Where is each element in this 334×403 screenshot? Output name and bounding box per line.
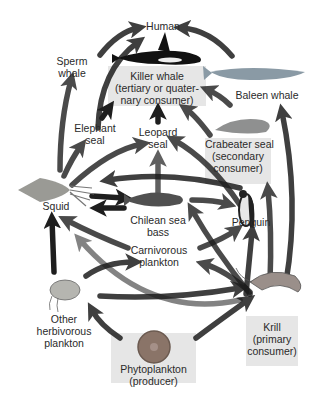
arrow-squid-to-elephant-seal — [64, 146, 81, 176]
node-crabeater-seal: Crabeater seal (secondary consumer) — [205, 138, 271, 174]
node-sperm-whale: Sperm whale — [52, 55, 92, 79]
arrow-squid-to-sea-bass — [92, 196, 124, 198]
node-baleen-whale: Baleen whale — [228, 89, 306, 101]
node-carnivorous-plankton: Carnivorous plankton — [124, 244, 194, 268]
node-phytoplankton: Phytoplankton (producer) — [111, 363, 196, 387]
arrow-baleen-whale-to-killer-whale — [208, 90, 230, 105]
node-killer-whale: Killer whale (tertiary or quater- nary c… — [108, 70, 206, 106]
baleen-whale-illustration — [203, 66, 305, 80]
node-krill: Krill (primary consumer) — [246, 321, 298, 357]
arrow-krill-to-baleen-whale — [282, 112, 292, 282]
arrow-herb-plankton-to-squid — [52, 220, 54, 272]
node-leopard-seal: Leopard seal — [134, 126, 182, 150]
killer-whale-illustration — [112, 32, 201, 65]
node-squid: Squid — [36, 200, 76, 212]
arrow-phytoplankton-to-herb-plankton — [92, 310, 120, 338]
chilean-sea-bass-illustration — [124, 192, 183, 206]
arrow-elephant-seal-to-killer-whale — [102, 108, 109, 118]
node-chilean-sea-bass: Chilean sea bass — [128, 214, 188, 238]
arrow-sperm-whale-to-human — [100, 28, 138, 55]
herbivorous-plankton-illustration — [49, 280, 80, 312]
node-human: Human — [142, 20, 184, 32]
arrow-sea-bass-to-penguin — [192, 200, 228, 204]
arrow-krill-to-crabeater-seal — [268, 190, 271, 282]
node-other-herbivorous-plankton: Other herbivorous plankton — [32, 313, 96, 349]
arrow-crabeater-seal-to-killer-whale — [186, 109, 210, 135]
arrow-baleen-whale-to-human — [182, 28, 232, 56]
phytoplankton-illustration — [138, 331, 170, 363]
node-penguin: Penguin — [226, 216, 276, 228]
arrow-carn-plankton-to-squid — [66, 220, 128, 248]
crabeater-seal-illustration — [215, 119, 270, 133]
node-elephant-seal: Elephant seal — [70, 122, 120, 146]
arrow-herb-plankton-to-krill — [100, 288, 240, 297]
arrow-krill-to-penguin — [246, 232, 252, 294]
